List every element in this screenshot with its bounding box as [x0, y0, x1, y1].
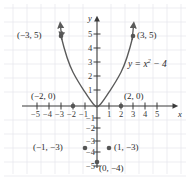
y-tick-label-3: 3 [88, 58, 92, 67]
y-tick-label-neg2: −2 [86, 124, 95, 133]
point-label-1-neg3: (1, −3) [114, 143, 139, 152]
y-tick-label-neg1: −1 [86, 114, 95, 123]
point-3-5 [131, 34, 136, 39]
x-tick-label-neg3: −3 [55, 110, 64, 119]
x-tick-label-2: 2 [119, 110, 123, 119]
x-tick-label-1: 1 [107, 110, 111, 119]
point-label-0-neg4: (0, −4) [99, 164, 124, 173]
point-1-neg3 [107, 146, 112, 151]
graph-figure: x y −5 −4 −3 −2 −1 1 2 3 4 5 5 4 3 2 1 −… [0, 0, 190, 178]
equation-tail: − 4 [151, 59, 167, 69]
x-tick-label-3: 3 [131, 110, 135, 119]
equation-label: y = x2 − 4 [128, 60, 167, 70]
x-tick-label-neg2: −2 [67, 110, 76, 119]
y-tick-label-neg3: −3 [86, 137, 95, 146]
x-tick-label-4: 4 [143, 110, 147, 119]
y-tick-label-neg5: −5 [86, 162, 95, 171]
equation-lead: y = x [128, 59, 148, 69]
point-label-neg2-0: (−2, 0) [31, 92, 56, 101]
point-2-0 [119, 104, 124, 109]
point-label-3-5: (3, 5) [137, 31, 157, 40]
point-label-2-0: (2, 0) [124, 92, 144, 101]
point-neg2-0 [71, 104, 76, 109]
point-label-neg3-5: (−3, 5) [17, 31, 42, 40]
y-tick-label-4: 4 [88, 44, 92, 53]
point-label-neg1-neg3: (−1, −3) [33, 143, 63, 152]
y-axis-label: y [88, 14, 92, 23]
y-tick-label-5: 5 [88, 30, 92, 39]
point-neg3-5 [59, 34, 64, 39]
y-tick-label-1: 1 [88, 86, 92, 95]
y-tick-label-neg4: −4 [86, 148, 95, 157]
x-tick-label-5: 5 [155, 110, 159, 119]
y-tick-label-2: 2 [88, 72, 92, 81]
x-tick-label-neg5: −5 [31, 110, 40, 119]
x-tick-label-neg4: −4 [43, 110, 52, 119]
x-axis-label: x [178, 110, 182, 119]
